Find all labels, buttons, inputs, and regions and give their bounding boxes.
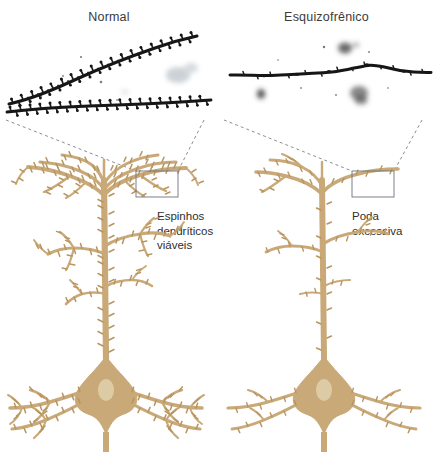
panel-title-schizophrenic: Esquizofrênico	[218, 10, 435, 24]
dendrite-micrograph-normal	[5, 30, 213, 118]
neuron-diagram-normal	[0, 118, 218, 452]
nucleus-normal	[98, 379, 114, 401]
figure-container: Normal Esquizofrênico	[0, 0, 435, 452]
neuron-diagram-schizophrenic	[218, 118, 435, 452]
panel-title-normal: Normal	[0, 10, 218, 24]
nucleus-schizophrenic	[316, 379, 332, 401]
dendrite-micrograph-schizophrenic	[228, 30, 433, 118]
